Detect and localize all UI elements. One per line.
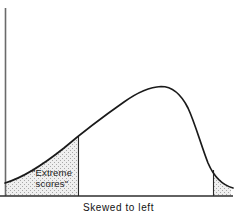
skewed-distribution-figure: "Extreme scores" Skewed to left (0, 0, 237, 216)
figure-caption: Skewed to left (0, 202, 237, 213)
extreme-scores-label: "Extreme scores" (27, 167, 77, 189)
extreme-scores-label-line2: scores" (27, 178, 77, 189)
right-tail-shading (206, 158, 231, 196)
extreme-scores-label-line1: "Extreme (27, 167, 77, 178)
